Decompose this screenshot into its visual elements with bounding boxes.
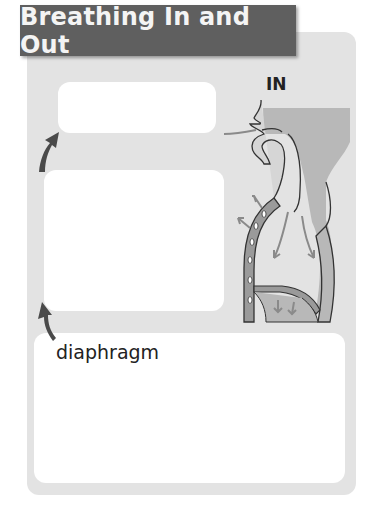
answer-box-top[interactable] bbox=[58, 82, 216, 133]
diaphragm-label: diaphragm bbox=[56, 341, 159, 363]
answer-box-middle[interactable] bbox=[44, 170, 224, 311]
title-banner: Breathing In and Out bbox=[20, 5, 296, 56]
airflow-in-line bbox=[224, 130, 256, 134]
page-title: Breathing In and Out bbox=[20, 3, 296, 59]
respiratory-system-diagram bbox=[222, 100, 354, 326]
curved-arrow-up-icon bbox=[36, 130, 62, 174]
curved-arrow-up-icon bbox=[34, 301, 58, 343]
breathing-in-label: IN bbox=[266, 74, 287, 94]
